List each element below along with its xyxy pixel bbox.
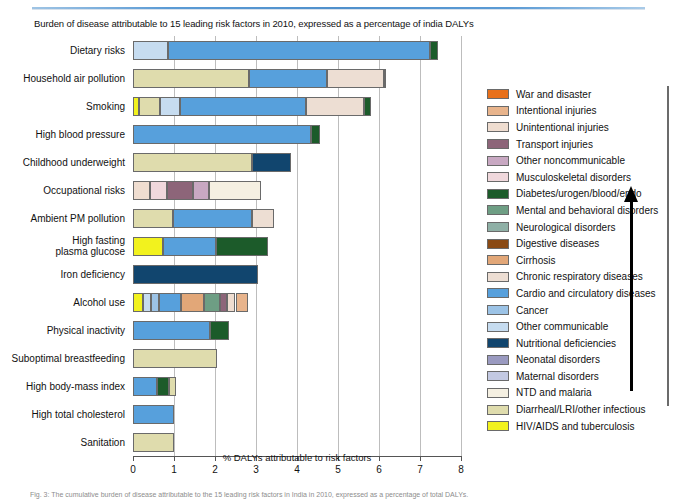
bar-row[interactable] [133,321,461,340]
legend-item[interactable]: Intentional injuries [487,103,677,120]
bar-segment[interactable] [133,209,173,228]
bar-segment[interactable] [139,97,160,116]
bar-row[interactable] [133,293,461,312]
bar-row[interactable] [133,237,461,256]
bar-segment[interactable] [252,209,275,228]
y-axis-labels: Dietary risksHousehold air pollutionSmok… [0,36,128,456]
bar-segment[interactable] [364,97,371,116]
legend-item[interactable]: Musculoskeletal disorders [487,169,677,186]
bar-row[interactable] [133,209,461,228]
legend-swatch-icon [487,305,509,315]
bar-segment[interactable] [133,377,157,396]
bar-row[interactable] [133,125,461,144]
bar-segment[interactable] [133,237,163,256]
bar-segment[interactable] [227,293,236,312]
bar-segment[interactable] [151,293,158,312]
bar-segment[interactable] [430,41,438,60]
x-axis-tick-label: 1 [171,464,177,475]
legend-swatch-icon [487,322,509,332]
legend-item[interactable]: Transport injuries [487,136,677,153]
bar-row[interactable] [133,153,461,172]
legend-item[interactable]: Cirrhosis [487,252,677,269]
bar-segment[interactable] [311,125,319,144]
x-axis-tick [461,456,462,461]
legend-label: War and disaster [516,89,591,100]
legend-item[interactable]: Nutritional deficiencies [487,335,677,352]
legend-item[interactable]: Cardio and circulatory diseases [487,285,677,302]
x-axis-tick-label: 0 [130,464,136,475]
legend-label: Unintentional injuries [516,122,609,133]
legend-item[interactable]: HIV/AIDS and tuberculosis [487,418,677,435]
bar-segment[interactable] [133,69,249,88]
bar-segment[interactable] [173,209,252,228]
bar-segment[interactable] [209,181,260,200]
legend-label: Other communicable [516,321,608,332]
bar-segment[interactable] [160,97,181,116]
bar-segment[interactable] [384,69,386,88]
bar-segment[interactable] [133,41,168,60]
bar-segment[interactable] [204,293,220,312]
bar-segment[interactable] [133,153,252,172]
bar-segment[interactable] [133,405,174,424]
bar-row[interactable] [133,433,461,452]
legend-swatch-icon [487,272,509,282]
bar-segment[interactable] [157,377,169,396]
bar-segment[interactable] [236,293,248,312]
legend-item[interactable]: War and disaster [487,86,677,103]
legend-item[interactable]: Other noncommunicable [487,152,677,169]
legend-item[interactable]: Unintentional injuries [487,119,677,136]
legend-item[interactable]: Neurological disorders [487,219,677,236]
bar-row[interactable] [133,349,461,368]
y-axis-label: High body-mass index [26,381,125,392]
bar-segment[interactable] [133,349,217,368]
bar-segment[interactable] [133,433,174,452]
bar-segment[interactable] [327,69,384,88]
legend-item[interactable]: Digestive diseases [487,235,677,252]
bar-row[interactable] [133,405,461,424]
bar-segment[interactable] [167,181,192,200]
bar-segment[interactable] [210,321,230,340]
bar-segment[interactable] [249,69,328,88]
bar-segment[interactable] [252,153,291,172]
bar-segment[interactable] [193,181,209,200]
bar-segment[interactable] [143,293,151,312]
bar-row[interactable] [133,377,461,396]
bar-segment[interactable] [169,377,176,396]
bar-segment[interactable] [181,293,204,312]
bar-segment[interactable] [150,181,167,200]
legend-item[interactable]: Diabetes/urogen/blood/endo [487,186,677,203]
legend-item[interactable]: Other communicable [487,318,677,335]
bar-segment[interactable] [133,293,143,312]
bar-segment[interactable] [133,125,311,144]
bar-segment[interactable] [306,97,364,116]
legend-label: HIV/AIDS and tuberculosis [516,421,634,432]
bar-segment[interactable] [163,237,216,256]
bar-segment[interactable] [180,97,306,116]
legend-item[interactable]: Chronic respiratory diseases [487,269,677,286]
legend-item[interactable]: NTD and malaria [487,385,677,402]
bar-row[interactable] [133,265,461,284]
bar-segment[interactable] [159,293,182,312]
bar-row[interactable] [133,69,461,88]
bar-segment[interactable] [168,41,430,60]
legend-item[interactable]: Maternal disorders [487,368,677,385]
header-rule-shadow [32,9,645,10]
bar-segment[interactable] [133,265,258,284]
legend-item[interactable]: Diarrheal/LRI/other infectious [487,401,677,418]
legend-item[interactable]: Neonatal disorders [487,352,677,369]
y-axis-label: Household air pollution [23,73,125,84]
bar-segment[interactable] [216,237,268,256]
bar-row[interactable] [133,97,461,116]
legend-item[interactable]: Cancer [487,302,677,319]
bar-row[interactable] [133,41,461,60]
legend-label: Nutritional deficiencies [516,338,616,349]
bar-segment[interactable] [133,181,150,200]
legend-swatch-icon [487,371,509,381]
bar-segment[interactable] [220,293,227,312]
bar-row[interactable] [133,181,461,200]
legend-item[interactable]: Mental and behavioral disorders [487,202,677,219]
legend-swatch-icon [487,222,509,232]
legend-swatch-icon [487,405,509,415]
legend-swatch-icon [487,189,509,199]
bar-segment[interactable] [133,321,210,340]
